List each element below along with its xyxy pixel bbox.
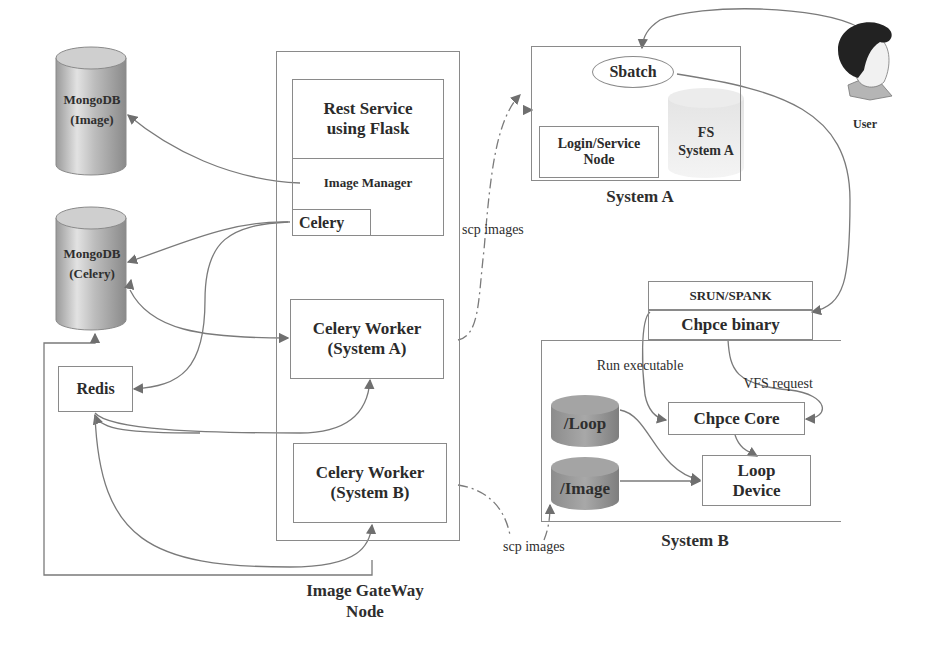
sbatch-label: Sbatch [609,63,656,81]
redis-box: Redis [58,366,133,412]
login-service-sublabel: Node [583,152,614,168]
run-executable-label: Run executable [580,357,700,375]
rest-service-label: Rest Service [323,99,412,119]
image-db-label: /Image [551,478,619,499]
worker-a-label: Celery Worker [313,319,422,339]
worker-b-sublabel: (System B) [331,483,410,503]
rest-service-flask: Rest Service using Flask [292,79,444,159]
celery-box: Celery [292,209,371,236]
mongodb-image-label: MongoDB [52,92,132,108]
fs-sublabel: System A [670,142,742,160]
vfs-request-label: VFS request [733,375,823,393]
loop-device-sublabel: Device [732,481,780,501]
scp-images-label-b: scp images [503,538,583,556]
worker-b-label: Celery Worker [316,463,425,483]
sbatch-node: Sbatch [592,56,674,88]
chpce-binary-box: Chpce binary [648,310,813,340]
login-service-node: Login/Service Node [539,126,659,178]
srun-spank: SRUN/SPANK [648,281,813,310]
celery-worker-system-b: Celery Worker (System B) [293,443,447,523]
system-b-title: System B [640,530,750,551]
system-a-title: System A [580,186,700,207]
loop-device-label: Loop [738,461,776,481]
image-manager-label: Image Manager [324,175,412,191]
scp-images-label-a: scp images [462,221,542,239]
loop-device-box: Loop Device [702,455,811,506]
rest-service-sublabel: using Flask [327,119,410,139]
gateway-title: Image GateWay Node [275,580,455,623]
worker-a-sublabel: (System A) [328,339,407,359]
user-label: User [843,117,887,132]
mongodb-image-sublabel: (Image) [52,112,132,128]
mongodb-celery-sublabel: (Celery) [52,266,132,282]
image-manager: Image Manager [292,170,444,196]
chpce-binary-label: Chpce binary [681,315,780,335]
redis-label: Redis [76,380,114,398]
user-avatar [838,22,892,100]
loop-db-label: /Loop [551,413,619,434]
gateway-title-line1: Image GateWay [275,580,455,601]
srun-spank-label: SRUN/SPANK [689,288,771,304]
gateway-title-line2: Node [275,601,455,622]
chpce-core-box: Chpce Core [668,402,805,435]
mongodb-image-db: MongoDB (Image) [52,92,132,129]
fs-system-a: FS System A [670,124,742,159]
celery-label: Celery [299,214,344,232]
mongodb-celery-label: MongoDB [52,246,132,262]
mongodb-celery-db: MongoDB (Celery) [52,246,132,283]
chpce-core-label: Chpce Core [693,409,779,429]
celery-worker-system-a: Celery Worker (System A) [290,299,444,379]
login-service-label: Login/Service [558,136,640,152]
fs-label: FS [670,124,742,142]
